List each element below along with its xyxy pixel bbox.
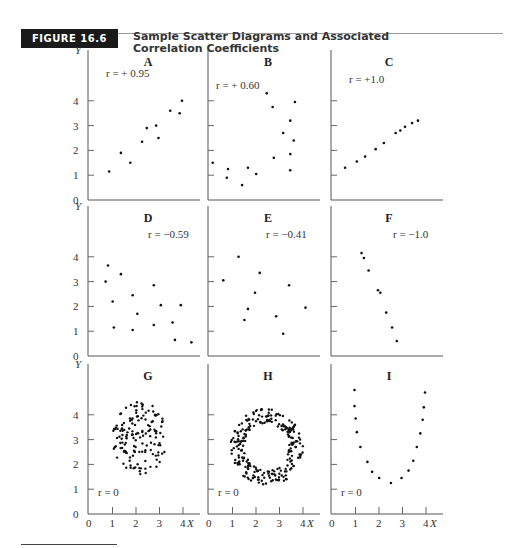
- correlation-label: r = −0.41: [266, 228, 307, 240]
- y-axis-label: Y: [75, 44, 83, 56]
- panel-label: F: [385, 211, 392, 225]
- y-tick-label: 2: [73, 144, 79, 156]
- y-tick-label: 3: [73, 276, 79, 288]
- panel-label: E: [264, 211, 272, 225]
- panel-label: D: [144, 211, 153, 225]
- correlation-label: r = +1.0: [349, 73, 385, 85]
- y-tick-label: 4: [73, 409, 79, 421]
- x-axis-label: X: [429, 517, 438, 529]
- x-tick-label: 3: [400, 517, 406, 529]
- panel-label: I: [387, 369, 392, 383]
- y-tick-label: 3: [73, 434, 79, 446]
- scatter-panels: Y01234Ar = + 0.95Br = + 0.60Cr = +1.0Y01…: [0, 0, 522, 548]
- x-tick-label: 0: [329, 517, 335, 529]
- x-axis-label: X: [186, 517, 195, 529]
- panel-label: H: [263, 369, 273, 383]
- y-tick-label: 0: [73, 508, 79, 520]
- x-tick-label: 1: [230, 517, 236, 529]
- correlation-label: r = 0: [341, 486, 362, 498]
- x-tick-label: 2: [253, 517, 259, 529]
- correlation-label: r = 0: [98, 486, 119, 498]
- y-tick-label: 3: [73, 120, 79, 132]
- y-tick-label: 2: [73, 458, 79, 470]
- x-tick-label: 2: [133, 517, 139, 529]
- x-tick-label: 3: [277, 517, 283, 529]
- x-tick-label: 3: [157, 517, 163, 529]
- x-tick-label: 4: [300, 517, 306, 529]
- y-tick-label: 1: [73, 325, 79, 337]
- x-tick-label: 2: [376, 517, 382, 529]
- y-tick-label: 1: [73, 483, 79, 495]
- correlation-label: r = −1.0: [393, 228, 429, 240]
- correlation-label: r = + 0.60: [216, 79, 260, 91]
- x-tick-label: 1: [110, 517, 116, 529]
- x-tick-label: 4: [180, 517, 186, 529]
- y-tick-label: 1: [73, 169, 79, 181]
- x-tick-label: 0: [86, 517, 92, 529]
- y-axis-label: Y: [75, 358, 83, 370]
- correlation-label: r = 0: [218, 486, 239, 498]
- footer-rule: [21, 544, 117, 545]
- x-tick-label: 0: [206, 517, 212, 529]
- y-tick-label: 2: [73, 300, 79, 312]
- axis-lines: [331, 50, 443, 200]
- panel-label: G: [143, 369, 152, 383]
- y-tick-label: 4: [73, 95, 79, 107]
- correlation-label: r = −0.59: [148, 228, 189, 240]
- correlation-label: r = + 0.95: [106, 67, 150, 79]
- panel-label: B: [264, 55, 272, 69]
- panel-label: C: [385, 55, 394, 69]
- y-axis-label: Y: [75, 200, 83, 212]
- y-tick-label: 4: [73, 251, 79, 263]
- x-tick-label: 4: [423, 517, 429, 529]
- x-tick-label: 1: [353, 517, 359, 529]
- x-axis-label: X: [306, 517, 315, 529]
- axis-lines: [208, 50, 320, 200]
